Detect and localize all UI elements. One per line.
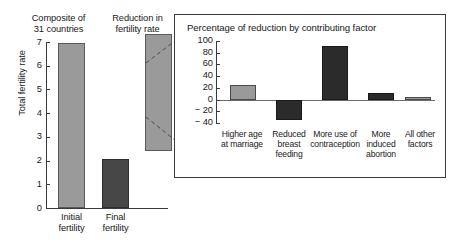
inset-zero-line <box>216 100 435 101</box>
main-ytick-label-4: 4 <box>22 107 42 119</box>
xcat-final-fertility: Final fertility <box>90 212 141 235</box>
inset-panel: Percentage of reduction by contributing … <box>174 14 446 178</box>
main-ytick-label-5: 5 <box>22 83 42 95</box>
heading-composite-line1: Composite of <box>22 13 95 24</box>
inset-ytick-label-neg20: − 20 <box>189 105 213 116</box>
inset-ytick-label-neg40: − 40 <box>189 117 213 128</box>
inset-bar-reduced-breast-feeding <box>276 100 302 121</box>
inset-ytick-100: 100 <box>216 41 220 42</box>
inset-ytick-neg20: − 20 <box>216 111 220 112</box>
inset-xcat-5-line1: All other <box>396 129 444 139</box>
inset-plot-area: 100 80 60 40 20 0 − 20 − 40 <box>216 41 435 123</box>
main-x-axis-line <box>46 208 168 209</box>
main-ytick-5: 5 <box>46 89 50 90</box>
main-ytick-label-0: 0 <box>22 202 42 214</box>
main-ytick-0: 0 <box>46 208 50 209</box>
inset-ytick-label-0: 0 <box>189 94 213 105</box>
xcat-final-line1: Final <box>90 212 141 223</box>
inset-xcat-4-line3: abortion <box>357 149 405 159</box>
fertility-reduction-figure: Composite of 31 countries Reduction in f… <box>0 0 453 249</box>
inset-bar-all-other-factors <box>405 97 431 99</box>
inset-ytick-label-40: 40 <box>189 70 213 81</box>
bar-initial-fertility <box>58 43 85 208</box>
inset-xcat-all-other-factors: All other factors <box>396 129 444 149</box>
main-ytick-4: 4 <box>46 113 50 114</box>
main-ytick-label-7: 7 <box>22 36 42 48</box>
inset-ytick-20: 20 <box>216 88 220 89</box>
inset-bar-higher-age-at-marriage <box>230 85 256 100</box>
inset-ytick-80: 80 <box>216 53 220 54</box>
inset-ytick-neg40: − 40 <box>216 123 220 124</box>
main-ytick-label-2: 2 <box>22 154 42 166</box>
inset-bar-more-use-of-contraception <box>322 46 348 100</box>
heading-reduction-line1: Reduction in <box>101 13 174 24</box>
heading-reduction: Reduction in fertility rate <box>101 13 174 36</box>
main-ytick-label-3: 3 <box>22 130 42 142</box>
inset-bar-more-induced-abortion <box>368 93 394 99</box>
inset-ytick-label-80: 80 <box>189 47 213 58</box>
main-ytick-3: 3 <box>46 137 50 138</box>
heading-composite: Composite of 31 countries <box>22 13 95 36</box>
inset-chart-title: Percentage of reduction by contributing … <box>187 22 376 33</box>
main-chart-headings: Composite of 31 countries Reduction in f… <box>22 13 174 36</box>
xcat-final-line2: fertility <box>90 223 141 234</box>
main-ytick-1: 1 <box>46 184 50 185</box>
inset-ytick-label-100: 100 <box>189 35 213 46</box>
main-ytick-2: 2 <box>46 161 50 162</box>
inset-ytick-40: 40 <box>216 76 220 77</box>
main-ytick-label-6: 6 <box>22 59 42 71</box>
main-ytick-6: 6 <box>46 66 50 67</box>
bar-reduction-in-fertility-rate <box>145 34 172 151</box>
main-chart-plot-area: 0 1 2 3 4 5 6 7 Initial ferti <box>46 42 176 209</box>
inset-xcat-5-line2: factors <box>396 139 444 149</box>
main-ytick-7: 7 <box>46 42 50 43</box>
bar-final-fertility <box>102 159 129 208</box>
main-ytick-label-1: 1 <box>22 178 42 190</box>
inset-ytick-label-60: 60 <box>189 58 213 69</box>
inset-ytick-60: 60 <box>216 64 220 65</box>
inset-xcat-2-line3: feeding <box>261 149 317 159</box>
inset-ytick-0: 0 <box>216 100 220 101</box>
inset-ytick-label-20: 20 <box>189 82 213 93</box>
heading-composite-line2: 31 countries <box>22 24 95 35</box>
